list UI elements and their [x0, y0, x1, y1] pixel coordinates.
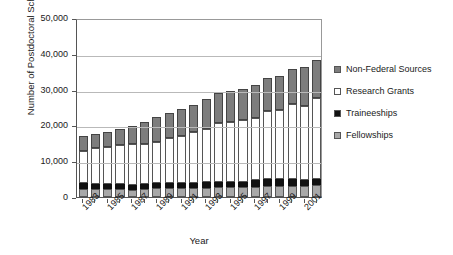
bar-segment-research-grants [312, 98, 321, 179]
bar-segment-research-grants [275, 110, 284, 179]
bar-segment-non-federal-sources [91, 134, 100, 147]
bar-segment-non-federal-sources [214, 93, 223, 123]
bar-1995 [226, 91, 235, 197]
bar-segment-non-federal-sources [177, 109, 186, 136]
bar-segment-research-grants [189, 132, 198, 182]
bar-segment-fellowships [79, 189, 88, 197]
x-axis-title: Year [76, 235, 322, 246]
y-tick-mark [72, 126, 76, 127]
bar-segment-non-federal-sources [300, 67, 309, 105]
bar-1999 [275, 76, 284, 197]
bar-segment-non-federal-sources [226, 91, 235, 122]
y-tick-mark [72, 162, 76, 163]
bar-segment-research-grants [115, 145, 124, 184]
bar-2001 [300, 67, 309, 197]
x-tick-mark [193, 199, 194, 203]
bar-segment-fellowships [103, 189, 112, 197]
legend-label: Traineeships [346, 108, 397, 118]
bar-1985 [103, 132, 112, 197]
x-tick-mark [144, 199, 145, 203]
y-tick-mark [72, 19, 76, 20]
gridline [77, 56, 321, 57]
bar-segment-non-federal-sources [140, 122, 149, 145]
y-tick-label: 30,000 [20, 85, 68, 95]
bar-segment-research-grants [165, 138, 174, 183]
bar-1992 [189, 105, 198, 197]
x-tick-mark [316, 199, 317, 203]
legend-item-non-federal-sources: Non-Federal Sources [334, 64, 432, 74]
bar-segment-non-federal-sources [202, 99, 211, 129]
bar-1989 [152, 117, 161, 197]
bars-layer [77, 20, 321, 197]
gridline [77, 127, 321, 128]
bar-segment-research-grants [226, 122, 235, 182]
bar-1991 [177, 109, 186, 197]
y-tick-mark [72, 55, 76, 56]
y-tick-label: 10,000 [20, 156, 68, 166]
x-tick-mark [217, 199, 218, 203]
legend-item-fellowships: Fellowships [334, 130, 432, 140]
bar-segment-traineeships [251, 180, 260, 187]
y-tick-label: 50,000 [20, 13, 68, 23]
bar-segment-research-grants [214, 123, 223, 182]
legend-swatch-icon [334, 88, 341, 95]
bar-segment-non-federal-sources [275, 76, 284, 110]
legend-label: Non-Federal Sources [346, 64, 432, 74]
bar-segment-non-federal-sources [263, 78, 272, 112]
legend-swatch-icon [334, 132, 341, 139]
bar-1990 [165, 113, 174, 197]
bar-segment-fellowships [251, 187, 260, 197]
bar-2000 [288, 69, 297, 198]
bar-1994 [214, 93, 223, 197]
bar-segment-research-grants [177, 136, 186, 183]
bar-segment-non-federal-sources [165, 113, 174, 138]
x-tick-mark [267, 199, 268, 203]
legend-swatch-icon [334, 66, 341, 73]
bar-1998 [263, 78, 272, 197]
bar-1996 [238, 89, 247, 197]
bar-segment-fellowships [226, 187, 235, 197]
bar-segment-research-grants [300, 106, 309, 180]
legend-item-traineeships: Traineeships [334, 108, 432, 118]
bar-segment-fellowships [300, 186, 309, 197]
bar-segment-research-grants [79, 151, 88, 183]
bar-1987 [128, 126, 137, 197]
chart-legend: Non-Federal SourcesResearch GrantsTraine… [334, 64, 432, 140]
bar-segment-research-grants [202, 129, 211, 182]
legend-item-research-grants: Research Grants [334, 86, 432, 96]
y-tick-label: 20,000 [20, 120, 68, 130]
legend-label: Fellowships [346, 130, 393, 140]
postdoctoral-scholars-chart: Number of Postdoctoral Scholars Year Non… [0, 0, 453, 255]
x-tick-mark [291, 199, 292, 203]
y-tick-mark [72, 198, 76, 199]
bar-segment-non-federal-sources [103, 132, 112, 147]
bar-segment-non-federal-sources [115, 129, 124, 146]
bar-segment-fellowships [202, 188, 211, 197]
y-tick-mark [72, 91, 76, 92]
gridline [77, 163, 321, 164]
bar-1983 [79, 136, 88, 197]
bar-1993 [202, 99, 211, 197]
bar-segment-non-federal-sources [251, 85, 260, 118]
legend-swatch-icon [334, 110, 341, 117]
bar-segment-non-federal-sources [288, 69, 297, 104]
bar-segment-research-grants [103, 147, 112, 185]
bar-segment-fellowships [177, 188, 186, 197]
bar-segment-non-federal-sources [152, 117, 161, 142]
bar-segment-research-grants [128, 144, 137, 185]
bar-segment-research-grants [288, 104, 297, 179]
bar-segment-non-federal-sources [128, 126, 137, 144]
bar-segment-research-grants [238, 120, 247, 182]
bar-segment-non-federal-sources [238, 89, 247, 121]
bar-2002 [312, 60, 321, 197]
bar-segment-research-grants [91, 148, 100, 184]
bar-1988 [140, 122, 149, 197]
bar-segment-fellowships [275, 186, 284, 197]
bar-segment-fellowships [152, 188, 161, 197]
x-tick-mark [168, 199, 169, 203]
y-tick-label: 40,000 [20, 49, 68, 59]
bar-1997 [251, 85, 260, 197]
bar-segment-fellowships [128, 190, 137, 197]
x-tick-mark [242, 199, 243, 203]
y-tick-label: 0 [20, 192, 68, 202]
